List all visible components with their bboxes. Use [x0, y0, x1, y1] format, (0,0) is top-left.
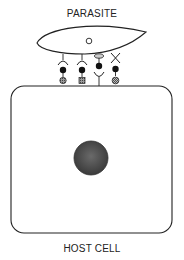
interaction-2 — [77, 54, 87, 84]
parasite — [37, 26, 146, 54]
cup-receptor-icon — [77, 61, 87, 65]
ligand-icon — [60, 67, 66, 73]
x-receptor-icon — [111, 53, 120, 63]
ligand-icon — [96, 63, 102, 69]
ligand-icon — [79, 67, 85, 73]
host-cell-label: HOST CELL — [0, 243, 184, 254]
interaction-3 — [94, 54, 104, 86]
cup-receptor-icon — [58, 61, 68, 65]
ligand-icon — [112, 66, 118, 72]
diagram-canvas — [0, 0, 184, 260]
interaction-4 — [111, 53, 120, 84]
host-cup-receptor-icon — [94, 72, 104, 77]
parasite-nucleus — [86, 38, 92, 44]
round-receptor-icon — [60, 77, 66, 83]
host-cell — [11, 86, 172, 233]
square-receptor-icon — [79, 78, 85, 84]
oval-ligand-icon — [95, 54, 104, 58]
hatched-receptor-icon — [112, 77, 119, 84]
host-nucleus — [74, 141, 108, 175]
interaction-1 — [58, 54, 68, 84]
